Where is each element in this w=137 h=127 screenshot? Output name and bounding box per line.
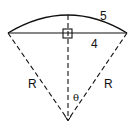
radius-right-label: R bbox=[104, 77, 113, 91]
half-chord-label: 4 bbox=[91, 37, 98, 51]
vertex-point bbox=[65, 116, 71, 121]
sector-diagram: 5 4 R R θ bbox=[0, 0, 137, 127]
angle-label: θ bbox=[73, 92, 79, 103]
radius-left bbox=[8, 33, 68, 120]
radius-left-label: R bbox=[28, 77, 37, 91]
arc-length-label: 5 bbox=[100, 9, 107, 23]
